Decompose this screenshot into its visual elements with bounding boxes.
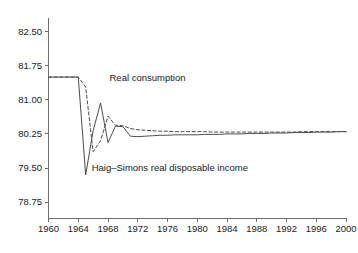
x-axis-tick-label: 1996 xyxy=(306,223,327,234)
y-axis-tick-label: 78.75 xyxy=(18,196,42,207)
series-annotation-label: Real consumption xyxy=(109,72,185,83)
x-axis-tick-label: 2000 xyxy=(335,223,356,234)
x-axis-tick-labels: 1960196419681972197619801984198819921996… xyxy=(38,223,357,234)
x-axis-tick-label: 1968 xyxy=(97,223,118,234)
y-axis-tick-label: 81.00 xyxy=(18,94,42,105)
y-axis-tick-label: 82.50 xyxy=(18,26,42,37)
x-axis-tick-label: 1992 xyxy=(276,223,297,234)
chart-background xyxy=(0,0,358,253)
x-axis-tick-label: 1984 xyxy=(216,223,237,234)
series-annotation-label: Haig–Simons real disposable income xyxy=(92,162,248,173)
chart-figure: 78.7579.5080.2581.0081.7582.50 196019641… xyxy=(0,0,358,253)
x-axis-tick-label: 1988 xyxy=(246,223,267,234)
x-axis-tick-label: 1980 xyxy=(187,223,208,234)
x-axis-tick-label: 1976 xyxy=(157,223,178,234)
x-axis-tick-label: 1972 xyxy=(127,223,148,234)
y-axis-tick-label: 80.25 xyxy=(18,128,42,139)
line-chart: 78.7579.5080.2581.0081.7582.50 196019641… xyxy=(0,0,358,253)
x-axis-tick-label: 1964 xyxy=(68,223,89,234)
y-axis-tick-label: 79.50 xyxy=(18,162,42,173)
y-axis-tick-label: 81.75 xyxy=(18,60,42,71)
x-axis-tick-label: 1960 xyxy=(38,223,59,234)
